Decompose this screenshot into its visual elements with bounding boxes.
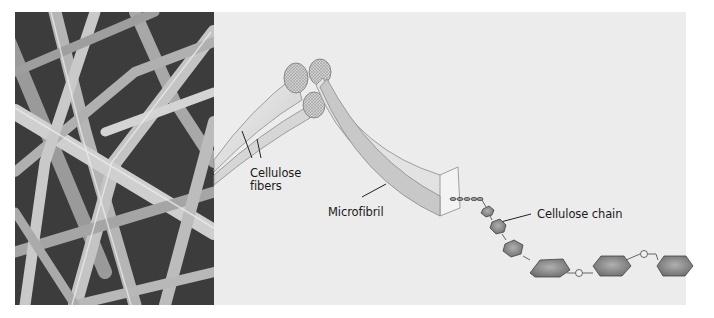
cellulose-fibers-label: Cellulose fibers xyxy=(250,167,310,193)
cellulose-structure-illustration xyxy=(0,0,714,318)
cellulose-chain-label: Cellulose chain xyxy=(537,208,622,221)
microfibril-label: Microfibril xyxy=(328,206,384,219)
cellulose-fibers-label-line2: fibers xyxy=(250,179,282,193)
cellulose-fibers-label-line1: Cellulose xyxy=(250,166,301,180)
microfibril-shape xyxy=(316,78,460,216)
